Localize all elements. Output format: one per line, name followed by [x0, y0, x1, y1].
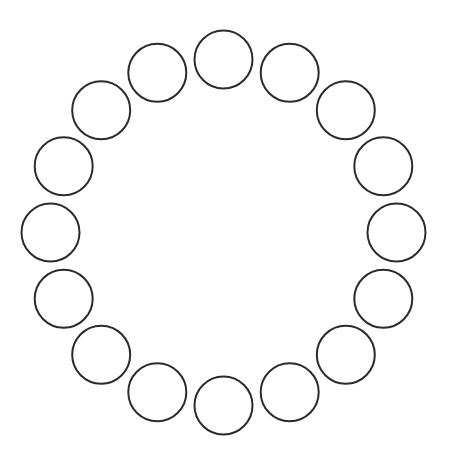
ring-circle [317, 326, 375, 384]
ring-circle [72, 326, 130, 384]
ring-circle [22, 204, 80, 262]
ring-circle [35, 270, 93, 328]
ring-circle [128, 363, 186, 421]
diagram-canvas [0, 0, 450, 468]
ring-circle [261, 363, 319, 421]
ring-circle [354, 137, 412, 195]
ring-circle [128, 44, 186, 102]
ring-circle [35, 137, 93, 195]
ring-of-circles-diagram [0, 0, 450, 468]
ring-circle [195, 377, 253, 435]
ring-circle [368, 204, 426, 262]
ring-circle [72, 81, 130, 139]
ring-circle [354, 270, 412, 328]
ring-circle [261, 44, 319, 102]
ring-circle [317, 81, 375, 139]
ring-circle [195, 31, 253, 89]
